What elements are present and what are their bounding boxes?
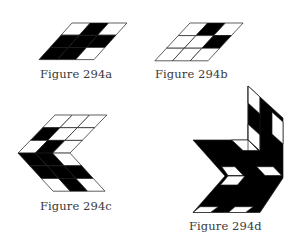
figure-294d-chevron-tiling (193, 86, 283, 213)
figure-294b-caption: Figure 294b (155, 67, 228, 81)
figure-294a-tiling (39, 23, 127, 60)
figure-page: Figure 294a Figure 294b Figure 294c Figu… (0, 0, 295, 237)
figure-294c-caption: Figure 294c (40, 199, 112, 213)
black-silhouette (193, 86, 283, 213)
figure-294d-caption: Figure 294d (189, 219, 262, 233)
figure-294c-chevron-tiling (18, 115, 107, 191)
figure-294a-caption: Figure 294a (40, 67, 112, 81)
figure-294b-tiling (155, 23, 243, 61)
